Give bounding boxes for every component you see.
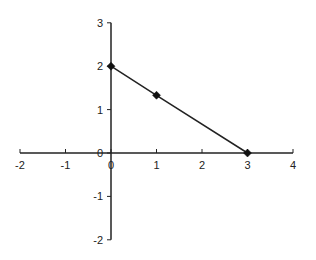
chart: -2-101234 -2-10123 <box>0 0 316 260</box>
axes <box>20 23 293 240</box>
diamond-marker-icon <box>244 149 252 157</box>
series-line <box>111 66 248 153</box>
diamond-marker-icon <box>153 91 161 99</box>
y-tick-label: -2 <box>93 234 103 246</box>
x-tick-label: -2 <box>15 159 25 171</box>
series-layer <box>107 62 252 157</box>
x-tick-label: 1 <box>153 159 159 171</box>
y-tick-label: -1 <box>93 190 103 202</box>
x-tick-label: 2 <box>199 159 205 171</box>
y-tick-label: 2 <box>97 60 103 72</box>
y-axis-ticks: -2-10123 <box>93 17 111 246</box>
y-tick-label: 3 <box>97 17 103 29</box>
x-tick-label: 4 <box>290 159 296 171</box>
diamond-marker-icon <box>107 62 115 70</box>
y-tick-label: 1 <box>97 104 103 116</box>
x-tick-label: -1 <box>61 159 71 171</box>
x-tick-label: 3 <box>244 159 250 171</box>
y-tick-label: 0 <box>97 147 103 159</box>
x-tick-label: 0 <box>108 159 114 171</box>
